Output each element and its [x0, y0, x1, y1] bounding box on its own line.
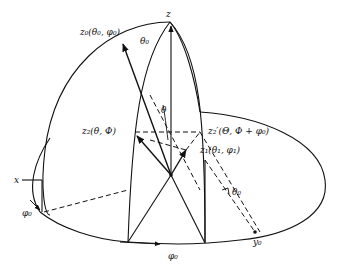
x-axis-label: x — [14, 176, 19, 185]
z-axis-label: z — [166, 10, 171, 19]
z1-vector — [171, 150, 186, 175]
theta0-right-label: θ₀ — [232, 188, 241, 197]
theta-center-label: θ — [161, 106, 166, 115]
phi0-bottom-label: φ₀ — [168, 252, 178, 261]
left-small-arc — [33, 138, 50, 212]
equator-front — [40, 212, 128, 242]
z2-vector — [137, 136, 171, 175]
z2-point-label: z₂(θ, Φ) — [82, 127, 116, 136]
theta0-top-label: θ₀ — [140, 37, 149, 46]
phi0-left-label: φ₀ — [22, 209, 32, 218]
z1-point-label: z₁(θ₁, φ₁) — [200, 146, 240, 155]
z2prime-point-label: z₂′(Θ, Φ + φ₀) — [208, 127, 269, 136]
z0-point-label: z₀(θ₀, φ₀) — [80, 28, 120, 37]
sphere-diagram — [0, 0, 338, 273]
y0-axis-label: y₀ — [253, 238, 262, 247]
